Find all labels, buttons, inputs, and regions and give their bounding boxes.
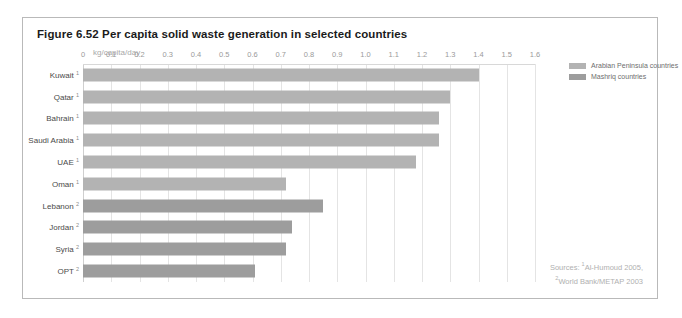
- category-label: OPT 2: [57, 266, 79, 277]
- category-label: Jordan 2: [49, 222, 79, 233]
- bar: [83, 112, 439, 125]
- bar: [83, 199, 323, 212]
- category-label: UAE 1: [57, 157, 79, 168]
- category-footnote-marker: 2: [76, 222, 79, 228]
- sources-line-2: 2World Bank/METAP 2003: [550, 273, 643, 287]
- x-tick-label: 1.3: [445, 50, 455, 59]
- bar-row: OPT 2: [83, 260, 535, 282]
- bar-row: Lebanon 2: [83, 195, 535, 217]
- sources-note: Sources: 1Al-Humoud 2005, 2World Bank/ME…: [550, 259, 643, 286]
- category-label: Oman 1: [52, 179, 79, 190]
- x-tick-label: 1.5: [502, 50, 512, 59]
- category-footnote-marker: 2: [76, 200, 79, 206]
- bar: [83, 134, 439, 147]
- category-label: Saudi Arabia 1: [28, 135, 79, 146]
- gridline: [535, 64, 536, 282]
- bar-row: Kuwait 1: [83, 64, 535, 86]
- x-tick-label: 0.9: [332, 50, 342, 59]
- x-tick-label: 0.6: [247, 50, 257, 59]
- source-text-2: World Bank/METAP 2003: [558, 276, 643, 285]
- bar: [83, 90, 450, 103]
- legend: Arabian Peninsula countries Mashriq coun…: [569, 62, 678, 84]
- bar: [83, 265, 255, 278]
- x-tick-label: 1.4: [473, 50, 483, 59]
- x-tick-label: 1.0: [360, 50, 370, 59]
- bar-row: Qatar 1: [83, 86, 535, 108]
- x-tick-label: 1.6: [530, 50, 540, 59]
- category-footnote-marker: 1: [76, 157, 79, 163]
- x-tick-label: 0.1: [106, 50, 116, 59]
- source-text-1: Al-Humoud 2005,: [585, 263, 643, 272]
- x-axis-unit-label: kg/capita/day: [93, 48, 140, 57]
- bar-row: Jordan 2: [83, 217, 535, 239]
- bar-row: Bahrain 1: [83, 108, 535, 130]
- x-tick-label: 0: [81, 50, 85, 59]
- category-footnote-marker: 1: [76, 179, 79, 185]
- bar-row: UAE 1: [83, 151, 535, 173]
- bar-row: Syria 2: [83, 238, 535, 260]
- category-label: Lebanon 2: [43, 200, 79, 211]
- category-label: Syria 2: [55, 244, 79, 255]
- x-tick-label: 0.5: [219, 50, 229, 59]
- x-tick-label: 0.3: [163, 50, 173, 59]
- plot-area: 00.10.20.30.40.50.60.70.80.91.01.11.21.3…: [83, 64, 535, 282]
- sources-line-1: Sources: 1Al-Humoud 2005,: [550, 259, 643, 273]
- category-label: Qatar 1: [54, 91, 79, 102]
- bar-row: Saudi Arabia 1: [83, 129, 535, 151]
- category-footnote-marker: 2: [76, 244, 79, 250]
- category-label: Bahrain 1: [46, 113, 79, 124]
- sources-prefix: Sources:: [550, 263, 582, 272]
- x-tick-label: 0.4: [191, 50, 201, 59]
- legend-item-mashriq: Mashriq countries: [569, 73, 678, 80]
- category-footnote-marker: 1: [76, 135, 79, 141]
- figure-title: Figure 6.52 Per capita solid waste gener…: [37, 28, 407, 40]
- legend-label: Arabian Peninsula countries: [591, 62, 678, 69]
- bar: [83, 156, 416, 169]
- legend-swatch-icon: [569, 74, 586, 80]
- legend-swatch-icon: [569, 63, 586, 69]
- bar-row: Oman 1: [83, 173, 535, 195]
- bar: [83, 243, 286, 256]
- category-footnote-marker: 2: [76, 266, 79, 272]
- category-footnote-marker: 1: [76, 70, 79, 76]
- legend-item-arabian-peninsula: Arabian Peninsula countries: [569, 62, 678, 69]
- figure-container: Figure 6.52 Per capita solid waste gener…: [22, 17, 658, 299]
- x-tick-label: 0.2: [134, 50, 144, 59]
- x-tick-label: 1.2: [417, 50, 427, 59]
- legend-label: Mashriq countries: [591, 73, 646, 80]
- x-tick-label: 0.7: [276, 50, 286, 59]
- x-tick-label: 1.1: [389, 50, 399, 59]
- bar: [83, 68, 479, 81]
- category-footnote-marker: 1: [76, 91, 79, 97]
- x-tick-label: 0.8: [304, 50, 314, 59]
- category-label: Kuwait 1: [50, 70, 79, 81]
- bar: [83, 221, 292, 234]
- bar: [83, 177, 286, 190]
- category-footnote-marker: 1: [76, 113, 79, 119]
